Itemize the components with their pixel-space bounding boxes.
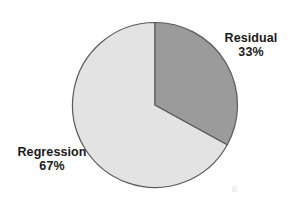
pie-label-regression: Regression 67% — [2, 145, 102, 173]
pie-chart-figure: Residual 33% Regression 67% — [0, 0, 288, 209]
scan-artifact — [232, 186, 237, 192]
pie-label-regression-value: 67% — [2, 159, 102, 173]
pie-label-residual-name: Residual — [214, 31, 288, 45]
pie-label-residual: Residual 33% — [214, 31, 288, 59]
pie-label-residual-value: 33% — [214, 45, 288, 59]
pie-label-regression-name: Regression — [2, 145, 102, 159]
